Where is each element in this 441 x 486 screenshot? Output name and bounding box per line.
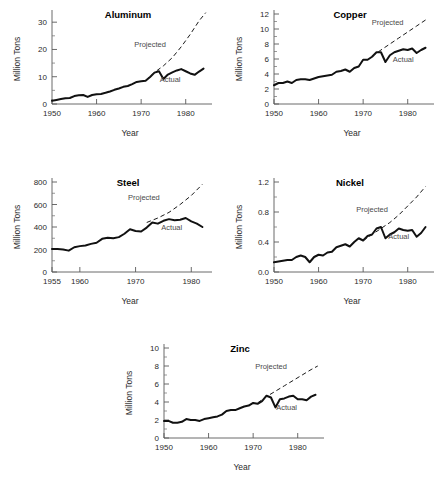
x-tick-label: 1960 [200,443,218,452]
y-tick-label: 200 [34,246,48,255]
y-tick-label: 600 [34,201,48,210]
y-tick-label: 0.4 [258,238,270,247]
annotation-projected: Projected [372,18,404,27]
annotation-actual: Actual [160,75,181,84]
y-axis-label: Million Tons [12,205,22,249]
x-tick-label: 1950 [43,109,61,118]
y-tick-label: 8 [265,40,270,49]
annotation-projected: Projected [255,362,287,371]
y-tick-label: 800 [34,178,48,187]
figure-panel-grid: 01020301950196019701980ProjectedActualAl… [0,0,441,486]
annotation-actual: Actual [393,55,414,64]
chart-title: Aluminum [105,9,151,20]
x-tick-label: 1960 [310,109,328,118]
y-tick-label: 0 [155,434,160,443]
x-tick-label: 1970 [354,109,372,118]
y-tick-label: 6 [265,55,270,64]
chart-svg-nickel: 0.00.40.81.21950196019701980ProjectedAct… [222,168,441,334]
x-tick-label: 1980 [182,277,200,286]
series-line-actual [274,48,426,86]
x-axis-label: Year [121,128,138,138]
x-axis-label: Year [233,462,250,472]
x-axis-label: Year [343,128,360,138]
y-tick-label: 10 [150,344,159,353]
chart-svg-copper: 0246810121950196019701980ProjectedActual… [222,0,441,166]
x-tick-label: 1980 [177,109,195,118]
axis-lines [164,344,324,438]
y-tick-label: 4 [155,398,160,407]
chart-title: Nickel [336,177,364,188]
x-tick-label: 1960 [310,277,328,286]
x-axis-label: Year [343,296,360,306]
y-tick-label: 6 [155,380,160,389]
y-axis-label: Million Tons [234,205,244,249]
x-tick-label: 1980 [399,109,417,118]
y-tick-label: 10 [260,25,269,34]
y-tick-label: 0 [265,100,270,109]
x-axis-label: Year [121,296,138,306]
y-axis-label: Million Tons [124,371,134,415]
annotation-actual: Actual [388,232,409,241]
x-tick-label: 1970 [132,109,150,118]
x-tick-label: 1950 [155,443,173,452]
x-tick-label: 1980 [289,443,307,452]
chart-panel-zinc: 02468101950196019701980ProjectedActualZi… [112,334,331,486]
chart-svg-zinc: 02468101950196019701980ProjectedActualZi… [112,334,331,486]
y-tick-label: 0.0 [258,268,270,277]
y-tick-label: 2 [265,85,270,94]
x-tick-label: 1960 [88,109,106,118]
y-tick-label: 30 [38,18,47,27]
annotation-projected: Projected [128,193,160,202]
y-tick-label: 1.2 [258,178,270,187]
y-tick-label: 20 [38,45,47,54]
y-tick-label: 0 [43,100,48,109]
chart-title: Steel [117,177,140,188]
x-tick-label: 1980 [399,277,417,286]
annotation-projected: Projected [134,40,166,49]
chart-panel-copper: 0246810121950196019701980ProjectedActual… [222,0,441,166]
y-tick-label: 12 [260,10,269,19]
y-axis-label: Million Tons [234,37,244,81]
y-tick-label: 8 [155,362,160,371]
y-tick-label: 10 [38,73,47,82]
x-tick-label: 1960 [71,277,89,286]
annotation-projected: Projected [356,205,388,214]
x-tick-label: 1950 [265,277,283,286]
y-axis-label: Million Tons [12,37,22,81]
chart-panel-steel: 02004006008001955196019701980ProjectedAc… [0,168,219,334]
y-tick-label: 2 [155,416,160,425]
chart-svg-steel: 02004006008001955196019701980ProjectedAc… [0,168,219,334]
annotation-actual: Actual [276,403,297,412]
x-tick-label: 1950 [265,109,283,118]
axis-lines [52,10,212,104]
series-line-projected [147,184,203,222]
x-tick-label: 1970 [244,443,262,452]
chart-panel-nickel: 0.00.40.81.21950196019701980ProjectedAct… [222,168,441,334]
axis-lines [274,178,434,272]
chart-title: Copper [333,9,367,20]
y-tick-label: 400 [34,223,48,232]
series-line-actual [52,69,204,101]
x-tick-label: 1970 [354,277,372,286]
x-tick-label: 1955 [43,277,61,286]
chart-svg-aluminum: 01020301950196019701980ProjectedActualAl… [0,0,219,166]
chart-panel-aluminum: 01020301950196019701980ProjectedActualAl… [0,0,219,166]
y-tick-label: 4 [265,70,270,79]
x-tick-label: 1970 [127,277,145,286]
y-tick-label: 0 [43,268,48,277]
chart-title: Zinc [230,343,250,354]
annotation-actual: Actual [161,223,182,232]
y-tick-label: 0.8 [258,208,270,217]
